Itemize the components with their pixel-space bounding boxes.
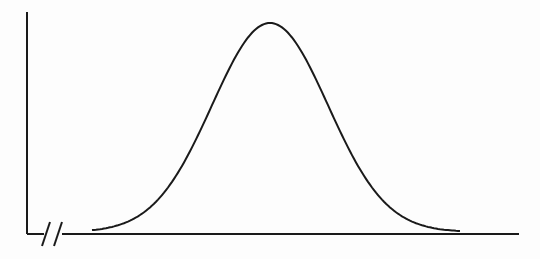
diagram-canvas (0, 0, 540, 259)
normal-curve (92, 23, 460, 231)
bell-curve-diagram (0, 0, 540, 259)
axis-break-icon (42, 222, 62, 246)
